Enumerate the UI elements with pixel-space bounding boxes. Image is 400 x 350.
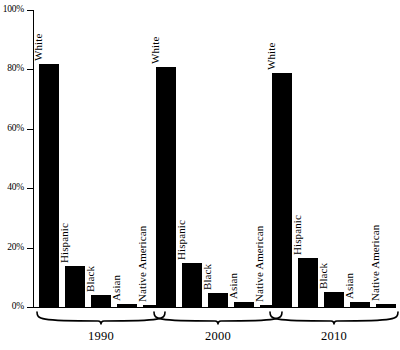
bar-label: Black xyxy=(202,264,213,290)
bar[interactable] xyxy=(376,304,396,308)
group-year-label: 2000 xyxy=(152,330,284,343)
bar-slot: Black xyxy=(91,10,111,308)
bar-slot: Native American xyxy=(376,10,396,308)
bar-label: White xyxy=(150,37,161,64)
bar-label: Black xyxy=(85,265,96,291)
bar-label: White xyxy=(33,34,44,61)
bar-slot: Asian xyxy=(117,10,137,308)
group-year-label: 2010 xyxy=(268,330,400,343)
bar[interactable] xyxy=(298,258,318,308)
y-axis-tick-label: 20% xyxy=(0,243,24,253)
bar-label: White xyxy=(266,43,277,70)
bar[interactable] xyxy=(156,67,176,308)
bar-slot: Black xyxy=(208,10,228,308)
bar[interactable] xyxy=(208,293,228,308)
bar-slot: Hispanic xyxy=(298,10,318,308)
group-brace-2000 xyxy=(152,311,284,325)
bar-slot: Asian xyxy=(234,10,254,308)
bar-label: Native American xyxy=(370,224,381,300)
bar[interactable] xyxy=(65,266,85,308)
bar-slot: Hispanic xyxy=(182,10,202,308)
plot-area: WhiteHispanicBlackAsianNative AmericanWh… xyxy=(34,10,380,308)
bar[interactable] xyxy=(324,292,344,308)
bar-label: Asian xyxy=(111,274,122,300)
y-axis-tick-label: 0% xyxy=(0,302,24,312)
bar-label: Asian xyxy=(228,273,239,299)
bar[interactable] xyxy=(234,302,254,308)
bar-group-2000: WhiteHispanicBlackAsianNative American xyxy=(156,10,280,308)
bar-label: Hispanic xyxy=(176,221,187,261)
y-axis-tick-label-wrap: 100% xyxy=(0,10,34,11)
group-brace-1990 xyxy=(35,311,167,325)
bar-label: Hispanic xyxy=(59,224,70,264)
bar-slot: White xyxy=(156,10,176,308)
group-brace-2010 xyxy=(268,311,400,325)
y-axis-tick-label-wrap: 80% xyxy=(0,69,34,70)
bar-label: Native American xyxy=(137,226,148,302)
bar[interactable] xyxy=(39,64,59,308)
bar-slot: White xyxy=(39,10,59,308)
group-year-label: 1990 xyxy=(35,330,167,343)
bar[interactable] xyxy=(350,302,370,308)
y-axis-tick-label: 60% xyxy=(0,124,24,134)
bar-slot: White xyxy=(272,10,292,308)
bar-group-2010: WhiteHispanicBlackAsianNative American xyxy=(272,10,396,308)
y-axis-tick-label-wrap: 0% xyxy=(0,307,34,308)
y-axis-tick-label-wrap: 60% xyxy=(0,129,34,130)
bar[interactable] xyxy=(272,73,292,308)
y-axis-tick-label: 100% xyxy=(0,5,24,15)
y-axis-tick-label: 80% xyxy=(0,64,24,74)
bar[interactable] xyxy=(91,295,111,308)
bar-label: Black xyxy=(318,263,329,289)
bar-label: Native American xyxy=(254,226,265,302)
bar-slot: Asian xyxy=(350,10,370,308)
bar-group-1990: WhiteHispanicBlackAsianNative American xyxy=(39,10,163,308)
y-axis-tick-label-wrap: 40% xyxy=(0,188,34,189)
y-axis-tick-label: 40% xyxy=(0,183,24,193)
bar-label: Asian xyxy=(344,273,355,299)
bar[interactable] xyxy=(182,263,202,308)
bar-label: Hispanic xyxy=(292,215,303,255)
bar[interactable] xyxy=(117,304,137,308)
bar-slot: Black xyxy=(324,10,344,308)
y-axis-tick-label-wrap: 20% xyxy=(0,248,34,249)
bar-slot: Hispanic xyxy=(65,10,85,308)
